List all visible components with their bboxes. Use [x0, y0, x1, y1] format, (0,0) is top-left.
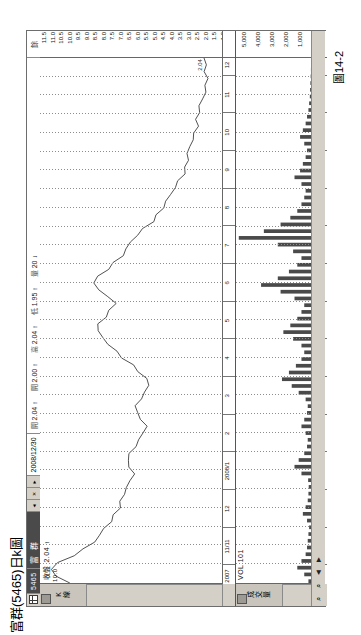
screenshot-root: 富群(5465)日k圖 圖14-2 5465 富 群 ◄ ✕ ► 2008/12…	[0, 0, 361, 635]
grid-line	[236, 526, 314, 527]
grid-line	[40, 244, 223, 245]
grid-line	[236, 151, 314, 152]
volume-axis-tick: 3,000	[269, 32, 275, 47]
grid-line	[236, 563, 314, 564]
grid-line	[40, 413, 223, 414]
grid-line	[236, 507, 314, 508]
date-axis-tick: 11/11	[224, 539, 230, 553]
grid-line	[40, 94, 223, 95]
volume-axis-tick: 1,000	[297, 32, 303, 47]
figure-caption-right: 圖14-2	[330, 51, 346, 84]
grid-line	[40, 132, 223, 133]
quote-strip: 開 2.04 ↑ 開 2.00 ↑ 高 2.04 ↑ 低 1.95 ↑ 量 20…	[27, 58, 40, 433]
grid-line	[40, 76, 223, 77]
volume-legend: VOL 101	[237, 549, 244, 580]
grid-line	[236, 207, 314, 208]
volume-axis-tick: 4,000	[255, 32, 261, 47]
grid-line	[40, 357, 223, 358]
quote-volume: 量 20 ↓	[29, 255, 39, 277]
grid-line	[40, 188, 223, 189]
date-axis-tick: 11	[224, 92, 230, 98]
scroll-left-icon[interactable]: ◄	[314, 568, 323, 577]
grid-line	[40, 226, 223, 227]
grid-line	[40, 338, 223, 339]
price-axis-tick: 9.5	[75, 32, 81, 40]
price-axis-tick: 3.5	[177, 32, 183, 40]
price-panel-tab[interactable]: K線	[40, 584, 235, 606]
date-axis-separator	[223, 489, 235, 490]
price-axis-tick: 11.0	[50, 32, 56, 43]
zoom-in-icon[interactable]: ⌕	[314, 581, 323, 590]
grid-line	[40, 451, 223, 452]
price-axis-tick: 2.0	[203, 32, 209, 40]
zoom-out-icon[interactable]: ⌕	[314, 594, 323, 603]
grid-line	[236, 376, 314, 377]
price-axis-tick: 5.0	[152, 32, 158, 40]
price-axis-tick: 3.0	[186, 32, 192, 40]
date-axis-tick: 3	[224, 394, 230, 397]
price-axis-tick: 10.0	[67, 32, 73, 44]
price-panel: K線 收盤 2.04 ↑ 2.04 10.0 11.511.010.510.09…	[40, 31, 236, 606]
grid-line	[236, 338, 314, 339]
price-axis-corner	[222, 31, 235, 58]
price-axis: 11.511.010.510.09.59.08.58.07.57.06.56.0…	[40, 31, 223, 57]
date-axis-separator	[223, 75, 235, 76]
grid-line	[236, 113, 314, 114]
grid-line	[40, 432, 223, 433]
status-bar: ⌕⌕◄►	[311, 31, 325, 606]
indicator-icon	[41, 594, 51, 604]
price-axis-tick: 6.0	[135, 32, 141, 40]
date-axis-tick: 6	[224, 281, 230, 284]
price-date-axis: 200711/11122008/123456789101112	[222, 57, 235, 584]
quote-open: 開 2.04 ↑	[29, 401, 39, 429]
grid-line	[236, 432, 314, 433]
date-axis-separator	[223, 150, 235, 151]
price-legend: 收盤 2.04 ↑	[41, 540, 51, 580]
window-menu-icon[interactable]	[27, 593, 40, 606]
scroll-right-icon[interactable]: ►	[314, 555, 323, 564]
close-button[interactable]: ✕	[27, 487, 40, 499]
price-axis-tick: 2.5	[194, 32, 200, 40]
grid-line	[236, 319, 314, 320]
date-axis-separator	[223, 188, 235, 189]
grid-line	[236, 244, 314, 245]
symbol-name: 富 群	[27, 511, 40, 568]
price-axis-tick: 9.0	[84, 32, 90, 40]
date-axis-tick: 4	[224, 356, 230, 359]
date-axis-separator	[223, 263, 235, 264]
grid-line	[236, 76, 314, 77]
next-button[interactable]: ►	[27, 475, 40, 487]
indicator-icon	[237, 594, 247, 604]
grid-line	[40, 151, 223, 152]
price-axis-tick: 8.5	[92, 32, 98, 40]
quote-high: 高 2.04 ↑	[29, 325, 39, 353]
grid-line	[236, 544, 314, 545]
price-panel-tab-label: K線	[55, 590, 71, 600]
price-axis-tick: 1.5	[211, 32, 217, 40]
grid-line	[236, 132, 314, 133]
grid-line	[236, 394, 314, 395]
price-axis-tick: 6.5	[126, 32, 132, 40]
date-axis-separator	[223, 564, 235, 565]
price-line-series	[40, 58, 223, 583]
grid-line	[236, 282, 314, 283]
price-panel-tab-footer	[222, 584, 235, 606]
grid-line	[40, 263, 223, 264]
grid-line	[236, 263, 314, 264]
prev-button[interactable]: ◄	[27, 499, 40, 511]
grid-line	[40, 507, 223, 508]
date-axis-tick: 9	[224, 168, 230, 171]
volume-axis: 5,0004,0003,0002,0001,000	[236, 31, 314, 57]
price-axis-tick: 10.5	[58, 32, 64, 44]
grid-line	[236, 469, 314, 470]
volume-panel-tab-label: 成交量	[247, 590, 271, 600]
grid-line	[40, 282, 223, 283]
grid-line	[40, 544, 223, 545]
grid-line	[40, 319, 223, 320]
grid-line	[40, 469, 223, 470]
price-plot-area[interactable]: 收盤 2.04 ↑ 2.04 10.0	[40, 57, 223, 584]
volume-plot-area[interactable]: VOL 101	[236, 57, 314, 584]
date-field[interactable]: 2008/12/30	[27, 433, 40, 475]
grid-line	[40, 207, 223, 208]
date-axis-tick: 2	[224, 432, 230, 435]
